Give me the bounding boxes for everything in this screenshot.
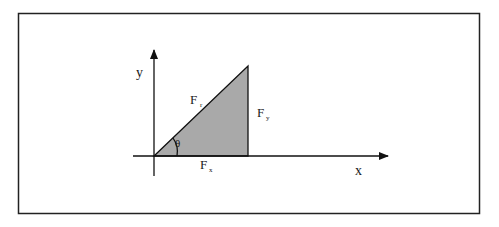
y-axis-label: y: [136, 65, 143, 80]
frame-border: [19, 14, 480, 214]
force-diagram: y x F r F y F x θ: [0, 0, 499, 227]
fx-subscript: x: [209, 166, 213, 174]
angle-theta-label: θ: [175, 137, 180, 149]
fx-label: F: [200, 157, 207, 172]
force-triangle: [154, 66, 248, 156]
fy-label: F: [257, 105, 264, 120]
fy-subscript: y: [266, 114, 270, 122]
resultant-label: F: [190, 92, 197, 107]
resultant-subscript: r: [200, 101, 203, 109]
x-axis-label: x: [355, 163, 362, 178]
